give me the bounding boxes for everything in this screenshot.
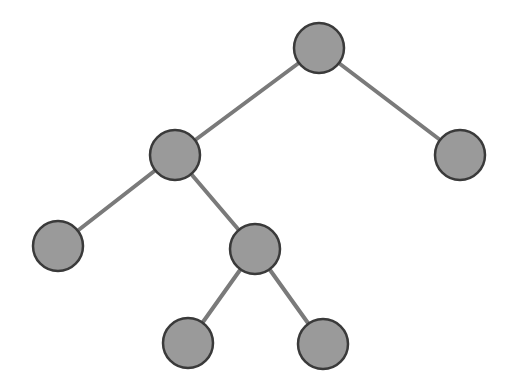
- tree-nodes: [33, 23, 485, 369]
- edge-root-to-left: [175, 48, 319, 155]
- tree-node-root: [294, 23, 344, 73]
- tree-node-left-left: [33, 221, 83, 271]
- tree-node-right: [435, 130, 485, 180]
- edge-root-to-right: [319, 48, 460, 155]
- tree-diagram: [0, 0, 511, 389]
- tree-node-left-right: [230, 224, 280, 274]
- tree-node-left-right-left: [163, 318, 213, 368]
- tree-edges: [58, 48, 460, 344]
- tree-node-left-right-right: [298, 319, 348, 369]
- tree-node-left: [150, 130, 200, 180]
